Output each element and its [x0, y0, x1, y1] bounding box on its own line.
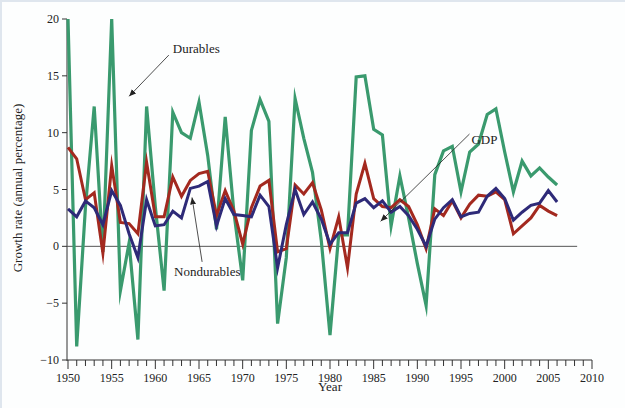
series-lines	[68, 19, 557, 346]
durables-label: Durables	[173, 41, 220, 56]
durables-arrow-icon	[129, 55, 169, 96]
y-tick-label: −5	[46, 296, 59, 310]
y-tick-label: 5	[53, 183, 59, 197]
axes: −10−505101520195019551960196519701975198…	[40, 12, 604, 385]
x-tick-label: 1990	[405, 371, 429, 385]
annotations: DurablesGDPNondurables	[129, 41, 497, 279]
y-tick-label: 20	[47, 12, 59, 26]
y-axis-title: Growth rate (annual percentage)	[10, 104, 25, 273]
x-tick-label: 1950	[56, 371, 80, 385]
y-tick-label: −10	[40, 353, 59, 367]
x-tick-label: 1995	[449, 371, 473, 385]
x-tick-label: 1970	[231, 371, 255, 385]
x-tick-label: 2010	[580, 371, 604, 385]
nondurables-label: Nondurables	[174, 264, 240, 279]
y-tick-label: 15	[47, 69, 59, 83]
y-tick-label: 0	[53, 239, 59, 253]
x-tick-label: 1955	[100, 371, 124, 385]
x-tick-label: 1965	[187, 371, 211, 385]
x-tick-label: 1960	[143, 371, 167, 385]
x-tick-label: 1975	[274, 371, 298, 385]
nondurables-arrow-icon	[192, 197, 202, 261]
x-axis-title: Year	[318, 379, 343, 394]
x-tick-label: 2005	[536, 371, 560, 385]
gdp-label: GDP	[471, 132, 497, 147]
x-tick-label: 1985	[362, 371, 386, 385]
line-chart: −10−505101520195019551960196519701975198…	[0, 0, 627, 410]
x-tick-label: 2000	[493, 371, 517, 385]
y-tick-label: 10	[47, 126, 59, 140]
